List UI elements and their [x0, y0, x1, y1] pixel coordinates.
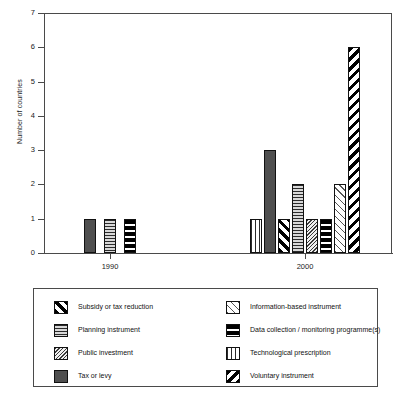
x-tick-label-2000: 2000 [285, 262, 325, 271]
x-tick-2000 [305, 253, 306, 259]
legend-column-right: Information-based instrumentData collect… [226, 289, 401, 386]
legend-item: Tax or levy [54, 368, 111, 384]
legend-label: Tax or levy [78, 372, 111, 380]
bar [84, 219, 96, 253]
legend-item: Information-based instrument [226, 299, 341, 315]
x-tick-label-1990: 1990 [90, 262, 130, 271]
legend-column-left: Subsidy or tax reductionPlanning instrum… [54, 289, 214, 386]
bar [348, 47, 360, 253]
y-tick-0 [38, 253, 44, 254]
legend-item: Technological prescription [226, 345, 331, 361]
legend-label: Subsidy or tax reduction [78, 303, 153, 311]
legend-label: Data collection / monitoring programme(s… [250, 326, 380, 334]
y-tick-label-2: 2 [22, 180, 35, 188]
legend-item: Data collection / monitoring programme(s… [226, 322, 380, 338]
y-tick-label-7: 7 [22, 9, 35, 17]
legend-swatch-icon [226, 370, 240, 383]
legend-label: Public investment [78, 349, 133, 357]
bar [124, 219, 136, 253]
bar [320, 219, 332, 253]
y-tick-label-5: 5 [22, 78, 35, 86]
legend-swatch-icon [54, 301, 68, 314]
y-tick-label-4: 4 [22, 112, 35, 120]
x-tick-1990 [110, 253, 111, 259]
legend-label: Technological prescription [250, 349, 331, 357]
legend-swatch-icon [54, 370, 68, 383]
legend-swatch-icon [226, 301, 240, 314]
legend-swatch-icon [54, 347, 68, 360]
bar-chart-figure: Number of countries 76543210 19902000 [0, 0, 409, 285]
bars-layer [44, 13, 392, 253]
legend: Subsidy or tax reductionPlanning instrum… [33, 288, 378, 387]
legend-swatch-icon [54, 324, 68, 337]
legend-item: Voluntary instrument [226, 368, 314, 384]
bar [292, 184, 304, 253]
legend-swatch-icon [226, 347, 240, 360]
bar [334, 184, 346, 253]
y-tick-label-0: 0 [22, 249, 35, 257]
legend-label: Information-based instrument [250, 303, 341, 311]
legend-item: Planning instrument [54, 322, 140, 338]
legend-label: Planning instrument [78, 326, 140, 334]
y-tick-label-6: 6 [22, 43, 35, 51]
bar [104, 219, 116, 253]
y-tick-label-3: 3 [22, 146, 35, 154]
bar [250, 219, 262, 253]
legend-swatch-icon [226, 324, 240, 337]
bar [306, 219, 318, 253]
legend-item: Public investment [54, 345, 133, 361]
y-tick-label-1: 1 [22, 215, 35, 223]
bar [278, 219, 290, 253]
bar [264, 150, 276, 253]
legend-label: Voluntary instrument [250, 372, 314, 380]
x-axis-line [44, 253, 393, 254]
legend-item: Subsidy or tax reduction [54, 299, 153, 315]
